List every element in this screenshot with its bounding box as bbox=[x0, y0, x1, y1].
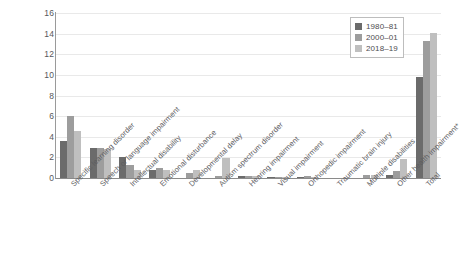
y-axis-tick-label: 4 bbox=[2, 132, 54, 142]
legend-label: 1980–81 bbox=[366, 22, 398, 31]
legend-item[interactable]: 2000–01 bbox=[355, 32, 398, 43]
bar bbox=[67, 116, 74, 178]
y-axis-tick-label: 14 bbox=[2, 29, 54, 39]
y-axis-tick-label: 16 bbox=[2, 8, 54, 18]
bar bbox=[267, 177, 274, 178]
y-axis-tick-label: 0 bbox=[2, 173, 54, 183]
y-axis-tick-label: 10 bbox=[2, 70, 54, 80]
legend-item[interactable]: 1980–81 bbox=[355, 21, 398, 32]
legend-label: 2018–19 bbox=[366, 44, 398, 53]
y-axis-tick-label: 8 bbox=[2, 91, 54, 101]
bar-group bbox=[60, 13, 81, 178]
legend-label: 2000–01 bbox=[366, 33, 398, 42]
bar bbox=[238, 176, 245, 178]
y-axis-tick-label: 12 bbox=[2, 49, 54, 59]
y-axis-tick-label: 2 bbox=[2, 152, 54, 162]
legend-swatch-icon bbox=[355, 34, 362, 41]
bar bbox=[386, 175, 393, 178]
legend-item[interactable]: 2018–19 bbox=[355, 43, 398, 54]
legend-swatch-icon bbox=[355, 23, 362, 30]
bar bbox=[297, 177, 304, 178]
bar bbox=[60, 141, 67, 178]
y-axis-tick-label: 6 bbox=[2, 111, 54, 121]
chart-legend: 1980–812000–012018–19 bbox=[350, 17, 404, 58]
legend-swatch-icon bbox=[355, 45, 362, 52]
